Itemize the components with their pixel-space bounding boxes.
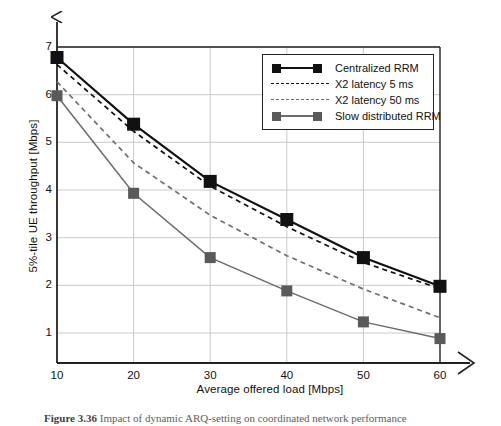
x-tick-label-20: 20 xyxy=(117,369,151,381)
x-tick-label-10: 10 xyxy=(40,369,74,381)
figure-root: 7 6 5 4 3 2 1 10 20 30 40 50 60 Average … xyxy=(0,0,501,426)
legend-key-slow-distributed-rrm xyxy=(269,109,331,123)
legend-square-right-gray xyxy=(313,112,322,121)
y-tick-label-1: 1 xyxy=(32,326,52,338)
figure-caption-text: Impact of dynamic ARQ-setting on coordin… xyxy=(100,412,407,424)
legend-key-x2-latency-5ms xyxy=(269,77,331,91)
figure-caption-number: Figure 3.36 xyxy=(44,412,97,424)
legend-key-x2-latency-50ms xyxy=(269,93,331,107)
x-tick-label-40: 40 xyxy=(270,369,304,381)
chart-figure: 7 6 5 4 3 2 1 10 20 30 40 50 60 Average … xyxy=(0,0,501,400)
x-tick-label-50: 50 xyxy=(346,369,380,381)
legend-key-centralized-rrm xyxy=(269,61,331,75)
legend-square-right-dark xyxy=(313,64,322,73)
figure-caption: Figure 3.36 Impact of dynamic ARQ-settin… xyxy=(44,412,464,424)
legend-label-x2-latency-50ms: X2 latency 50 ms xyxy=(331,94,419,106)
x-tick-label-30: 30 xyxy=(193,369,227,381)
legend-label-centralized-rrm: Centralized RRM xyxy=(331,62,419,74)
legend-square-left-gray xyxy=(272,112,281,121)
legend-dash-gray xyxy=(271,99,329,100)
legend-item-x2-latency-50ms: X2 latency 50 ms xyxy=(269,92,427,108)
x-axis-title: Average offered load [Mbps] xyxy=(120,383,420,395)
y-axis-title: 5%-tile UE throughput [Mbps] xyxy=(27,91,39,301)
y-tick-label-7: 7 xyxy=(32,40,52,52)
legend-dash-dark xyxy=(271,83,329,84)
legend-item-x2-latency-5ms: X2 latency 5 ms xyxy=(269,76,427,92)
series-line-slow-distributed-rrm xyxy=(57,96,440,339)
x-tick-label-60: 60 xyxy=(423,369,457,381)
legend-label-x2-latency-5ms: X2 latency 5 ms xyxy=(331,78,413,90)
legend-square-left-dark xyxy=(272,64,281,73)
legend-item-slow-distributed-rrm: Slow distributed RRM xyxy=(269,108,427,124)
chart-legend: Centralized RRM X2 latency 5 ms X2 laten… xyxy=(262,54,434,130)
legend-item-centralized-rrm: Centralized RRM xyxy=(269,60,427,76)
legend-label-slow-distributed-rrm: Slow distributed RRM xyxy=(331,110,441,122)
